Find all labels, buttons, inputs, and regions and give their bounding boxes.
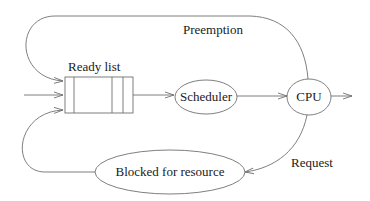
scheduler-label: Scheduler: [180, 89, 233, 104]
process-scheduling-diagram: Ready list Scheduler CPU Blocked for res…: [0, 0, 370, 201]
ready-list-label: Ready list: [68, 59, 121, 74]
preemption-label: Preemption: [183, 22, 243, 37]
blocked-label: Blocked for resource: [115, 164, 224, 179]
unblock-arrow: [22, 110, 95, 172]
request-label: Request: [291, 155, 333, 170]
ready-list-queue: [65, 77, 133, 113]
cpu-label: CPU: [296, 89, 322, 104]
